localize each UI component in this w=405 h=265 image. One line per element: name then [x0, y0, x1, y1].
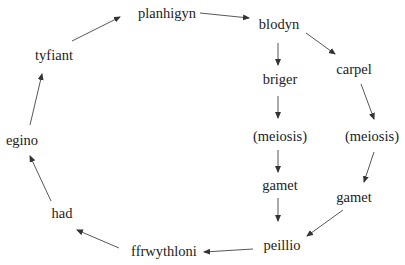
node-briger: briger [263, 71, 298, 88]
arrow-gamet2-to-peillio [307, 210, 343, 236]
node-planhigyn: planhigyn [138, 5, 196, 22]
arrow-carpel-to-meiosis2 [361, 84, 374, 119]
arrow-planhigyn-to-blodyn [200, 13, 249, 18]
arrow-ffrwythloni-to-had [77, 230, 119, 248]
node-gamet1: gamet [262, 177, 297, 194]
node-had: had [52, 205, 73, 222]
plant-life-cycle-diagram: planhigynblodyncarpelbriger(meiosis)(mei… [0, 0, 405, 265]
arrow-tyfiant-to-planhigyn [72, 17, 120, 41]
node-ffrwythloni: ffrwythloni [131, 243, 197, 260]
arrow-egino-to-tyfiant [30, 74, 42, 125]
node-carpel: carpel [336, 61, 371, 78]
node-egino: egino [6, 132, 38, 149]
node-meiosis2: (meiosis) [345, 128, 399, 145]
node-peillio: peillio [263, 237, 300, 254]
node-gamet2: gamet [336, 189, 371, 206]
node-meiosis1: (meiosis) [253, 128, 307, 145]
arrow-peillio-to-ffrwythloni [204, 249, 253, 252]
arrow-blodyn-to-carpel [306, 33, 335, 54]
node-blodyn: blodyn [259, 16, 299, 33]
node-tyfiant: tyfiant [35, 47, 73, 64]
arrow-meiosis2-to-gamet2 [364, 152, 374, 182]
arrow-had-to-egino [30, 156, 51, 201]
